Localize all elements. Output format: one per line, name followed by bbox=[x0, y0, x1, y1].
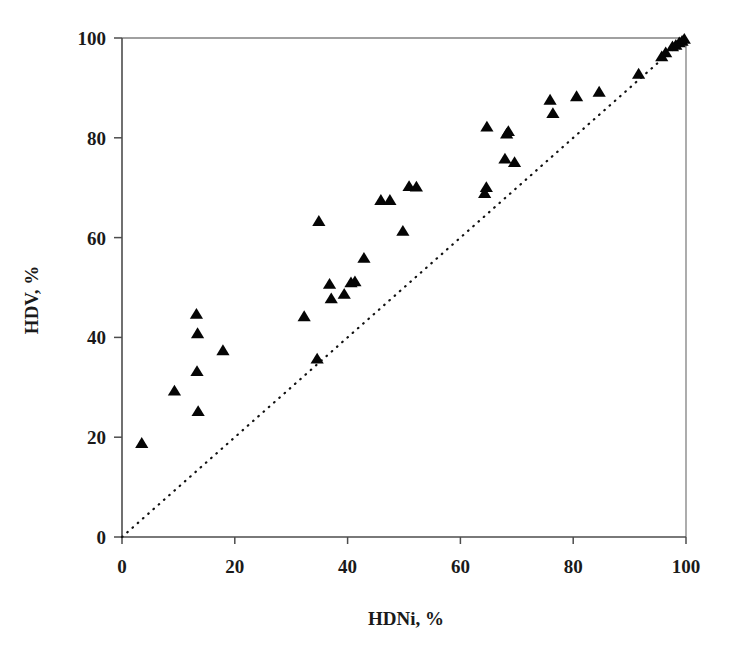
parity-line bbox=[122, 38, 686, 537]
data-point bbox=[543, 94, 556, 105]
data-point bbox=[135, 437, 148, 448]
y-axis-title: HDV, % bbox=[21, 266, 42, 334]
data-point bbox=[323, 278, 336, 289]
data-point bbox=[546, 107, 559, 118]
data-point bbox=[311, 353, 324, 364]
x-tick-label-80: 80 bbox=[564, 556, 583, 577]
data-markers bbox=[135, 33, 691, 448]
y-tick-label-80: 80 bbox=[87, 128, 106, 149]
x-tick-label-100: 100 bbox=[672, 556, 701, 577]
y-tick-label-100: 100 bbox=[78, 28, 107, 49]
parity-line bbox=[122, 38, 686, 537]
x-tick-label-20: 20 bbox=[225, 556, 244, 577]
data-point bbox=[298, 310, 311, 321]
data-point bbox=[216, 344, 229, 355]
data-point bbox=[593, 86, 606, 97]
data-point bbox=[192, 405, 205, 416]
x-tick-label-0: 0 bbox=[117, 556, 127, 577]
data-point bbox=[480, 181, 493, 192]
data-point bbox=[168, 385, 181, 396]
y-tick-label-20: 20 bbox=[87, 427, 106, 448]
x-tick-label-60: 60 bbox=[451, 556, 470, 577]
y-tick-label-0: 0 bbox=[97, 527, 107, 548]
data-point bbox=[396, 225, 409, 236]
data-point bbox=[191, 327, 204, 338]
axis-tick-labels: 020406080100020406080100 bbox=[78, 28, 701, 577]
x-tick-label-40: 40 bbox=[338, 556, 357, 577]
data-point bbox=[312, 215, 325, 226]
data-point bbox=[502, 125, 515, 136]
data-point bbox=[338, 288, 351, 299]
plot-canvas: 020406080100020406080100 HDNi, % HDV, % bbox=[0, 0, 732, 648]
data-point bbox=[570, 90, 583, 101]
y-tick-label-60: 60 bbox=[87, 228, 106, 249]
x-axis-title: HDNi, % bbox=[368, 608, 444, 629]
data-point bbox=[632, 68, 645, 79]
data-point bbox=[325, 292, 338, 303]
data-point bbox=[383, 194, 396, 205]
data-point bbox=[480, 121, 493, 132]
data-point bbox=[190, 365, 203, 376]
scatter-plot-figure: 020406080100020406080100 HDNi, % HDV, % bbox=[0, 0, 732, 648]
y-tick-label-40: 40 bbox=[87, 327, 106, 348]
data-point bbox=[498, 153, 511, 164]
data-point bbox=[190, 308, 203, 319]
data-point bbox=[357, 252, 370, 263]
